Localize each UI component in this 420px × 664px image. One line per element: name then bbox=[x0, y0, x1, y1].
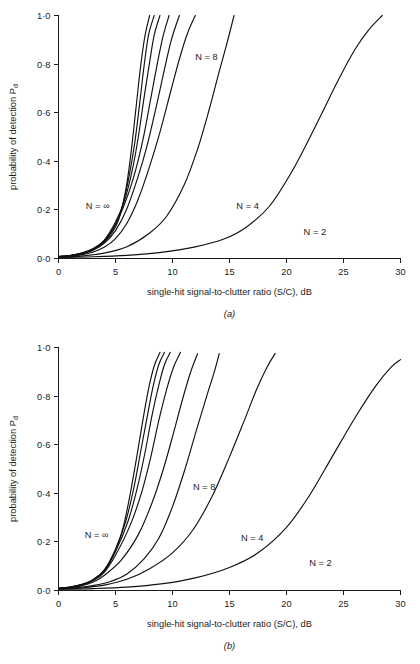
y-axis-title-main: probability of detection P bbox=[8, 88, 18, 190]
x-tick-label: 30 bbox=[395, 267, 405, 277]
curve-label: N = 2 bbox=[304, 227, 326, 237]
data-curve bbox=[59, 16, 196, 258]
y-tick-label: 0·0 bbox=[37, 586, 50, 596]
data-curve bbox=[59, 16, 180, 257]
chart-svg-b: 0·00·20·40·60·81·0051015202530N = ∞N = 8… bbox=[0, 332, 420, 664]
y-tick-label: 0·6 bbox=[37, 108, 50, 118]
y-tick-label: 1·0 bbox=[37, 343, 50, 353]
x-tick-label: 10 bbox=[167, 267, 177, 277]
figure-page: 0·00·20·40·60·81·0051015202530N = ∞N = 8… bbox=[0, 0, 420, 664]
curve-label: N = 8 bbox=[193, 482, 215, 492]
data-curve bbox=[59, 16, 160, 257]
y-tick-label: 0·4 bbox=[37, 157, 50, 167]
data-curve bbox=[59, 360, 401, 590]
y-axis-title-main: probability of detection P bbox=[8, 420, 18, 522]
x-tick-label: 20 bbox=[281, 599, 291, 609]
y-axis-title-subscript: d bbox=[11, 416, 20, 420]
panel-caption: (a) bbox=[224, 309, 235, 319]
x-tick-label: 25 bbox=[338, 267, 348, 277]
x-tick-label: 5 bbox=[113, 599, 118, 609]
y-tick-label: 0·8 bbox=[37, 60, 50, 70]
x-tick-label: 25 bbox=[338, 599, 348, 609]
data-curve bbox=[59, 352, 181, 588]
y-tick-label: 0·0 bbox=[37, 254, 50, 264]
x-tick-label: 30 bbox=[395, 599, 405, 609]
data-curve bbox=[59, 352, 160, 588]
x-axis-title: single-hit signal-to-clutter ratio (S/C)… bbox=[147, 287, 312, 297]
y-axis-title: probability of detection Pd bbox=[8, 84, 20, 190]
curve-label: N = 2 bbox=[309, 558, 331, 568]
x-tick-label: 15 bbox=[224, 599, 234, 609]
chart-panel-a: 0·00·20·40·60·81·0051015202530N = ∞N = 8… bbox=[0, 0, 420, 332]
x-tick-label: 10 bbox=[167, 599, 177, 609]
chart-svg-a: 0·00·20·40·60·81·0051015202530N = ∞N = 8… bbox=[0, 0, 420, 332]
y-tick-label: 1·0 bbox=[37, 11, 50, 21]
curve-label: N = ∞ bbox=[86, 201, 110, 211]
data-curve bbox=[59, 354, 198, 589]
y-tick-label: 0·6 bbox=[37, 440, 50, 450]
x-tick-label: 0 bbox=[56, 267, 61, 277]
y-tick-label: 0·4 bbox=[37, 489, 50, 499]
data-curve bbox=[59, 16, 383, 258]
y-axis-title-subscript: d bbox=[11, 84, 20, 88]
y-axis-title: probability of detection Pd bbox=[8, 416, 20, 522]
x-axis-title: single-hit signal-to-clutter ratio (S/C)… bbox=[147, 619, 312, 629]
axis-spines bbox=[59, 16, 401, 259]
data-curve bbox=[59, 352, 171, 588]
panel-caption: (b) bbox=[224, 641, 235, 651]
data-curve bbox=[59, 16, 155, 257]
y-tick-label: 0·8 bbox=[37, 392, 50, 402]
y-tick-label: 0·2 bbox=[37, 205, 50, 215]
data-curve bbox=[59, 354, 220, 589]
curve-label: N = 4 bbox=[241, 533, 263, 543]
y-tick-label: 0·2 bbox=[37, 537, 50, 547]
plot-area-b: 0·00·20·40·60·81·0051015202530N = ∞N = 8… bbox=[8, 343, 406, 651]
x-tick-label: 20 bbox=[281, 267, 291, 277]
curve-label: N = 4 bbox=[236, 201, 258, 211]
x-tick-label: 15 bbox=[224, 267, 234, 277]
x-tick-label: 0 bbox=[56, 599, 61, 609]
chart-panel-b: 0·00·20·40·60·81·0051015202530N = ∞N = 8… bbox=[0, 332, 420, 664]
data-curve bbox=[59, 16, 170, 257]
x-tick-label: 5 bbox=[113, 267, 118, 277]
plot-area-a: 0·00·20·40·60·81·0051015202530N = ∞N = 8… bbox=[8, 11, 406, 319]
axis-spines bbox=[59, 348, 401, 591]
curve-label: N = ∞ bbox=[85, 530, 109, 540]
curve-label: N = 8 bbox=[195, 52, 217, 62]
